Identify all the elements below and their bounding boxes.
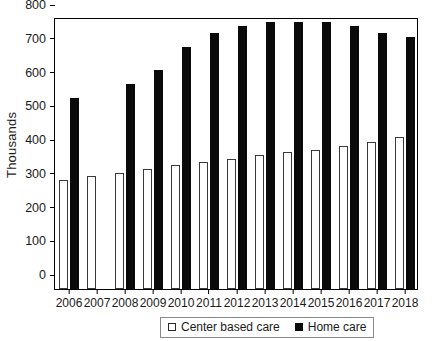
y-axis-tick-mark <box>50 275 55 276</box>
y-axis-tick-label: 500 <box>20 99 50 113</box>
bar-home-care-2017 <box>378 33 388 290</box>
bar-center-based-care-2011 <box>199 162 209 289</box>
x-axis-tick: 2008 <box>112 289 139 310</box>
bar-chart: Thousands 0100200300400500600700800 2006… <box>0 0 432 341</box>
x-axis-tick-label: 2015 <box>308 296 335 310</box>
x-axis-tick: 2016 <box>336 289 363 310</box>
y-axis-tick: 800 <box>20 0 55 12</box>
x-axis-tick: 2012 <box>224 289 251 310</box>
y-axis-tick: 100 <box>20 234 55 248</box>
x-axis-tick: 2014 <box>280 289 307 310</box>
y-axis-tick: 700 <box>20 32 55 46</box>
legend-item-center-based-care: Center based care <box>168 320 280 334</box>
y-axis-tick-label: 600 <box>20 66 50 80</box>
x-axis-tick: 2011 <box>196 289 222 310</box>
y-axis-tick: 0 <box>20 268 55 282</box>
bar-center-based-care-2009 <box>143 169 153 289</box>
x-axis-tick-label: 2006 <box>56 296 83 310</box>
bar-home-care-2012 <box>238 26 248 289</box>
x-axis-tick-mark <box>320 289 321 294</box>
bar-center-based-care-2014 <box>283 152 293 289</box>
bar-home-care-2015 <box>322 22 332 289</box>
bar-center-based-care-2006 <box>59 180 69 289</box>
x-axis-tick: 2007 <box>84 289 111 310</box>
y-axis-tick: 200 <box>20 201 55 215</box>
bar-center-based-care-2007 <box>87 176 97 289</box>
y-axis-tick-mark <box>50 38 55 39</box>
legend-label-home-care: Home care <box>308 320 367 334</box>
y-axis-tick-mark <box>50 72 55 73</box>
x-axis-tick-label: 2007 <box>84 296 111 310</box>
x-axis-tick: 2018 <box>392 289 419 310</box>
bar-home-care-2009 <box>154 70 164 289</box>
bar-center-based-care-2013 <box>255 155 265 289</box>
plot-area: 0100200300400500600700800 20062007200820… <box>54 18 418 290</box>
y-axis-tick-label: 400 <box>20 133 50 147</box>
plot-inner: 0100200300400500600700800 20062007200820… <box>55 19 417 289</box>
x-axis-tick-label: 2016 <box>336 296 363 310</box>
x-axis-tick-label: 2017 <box>364 296 391 310</box>
x-axis-tick-label: 2010 <box>168 296 195 310</box>
bar-home-care-2018 <box>406 37 416 289</box>
x-axis-tick: 2006 <box>56 289 83 310</box>
bar-home-care-2016 <box>350 26 360 289</box>
x-axis-tick-mark <box>236 289 237 294</box>
filled-square-swatch-icon <box>295 323 303 331</box>
bar-home-care-2013 <box>266 22 276 289</box>
x-axis-tick-mark <box>96 289 97 294</box>
x-axis-tick-mark <box>292 289 293 294</box>
y-axis-tick-label: 700 <box>20 32 50 46</box>
y-axis-title: Thousands <box>2 0 20 290</box>
legend-item-home-care: Home care <box>295 320 367 334</box>
legend-label-center-based-care: Center based care <box>181 320 280 334</box>
y-axis-tick-label: 200 <box>20 201 50 215</box>
open-square-swatch-icon <box>168 323 176 331</box>
y-axis-tick-label: 0 <box>20 268 50 282</box>
y-axis-tick-mark <box>50 106 55 107</box>
bar-home-care-2006 <box>70 98 80 289</box>
bar-center-based-care-2012 <box>227 159 237 289</box>
x-axis-tick-label: 2009 <box>140 296 167 310</box>
bar-center-based-care-2010 <box>171 165 181 289</box>
x-axis-tick: 2015 <box>308 289 335 310</box>
chart-legend: Center based care Home care <box>160 317 374 338</box>
y-axis-tick-mark <box>50 5 55 6</box>
x-axis-tick: 2017 <box>364 289 391 310</box>
x-axis-tick-mark <box>404 289 405 294</box>
y-axis-tick-label: 100 <box>20 234 50 248</box>
y-axis-tick-label: 800 <box>20 0 50 12</box>
x-axis-tick-mark <box>209 289 210 294</box>
y-axis-tick-label: 300 <box>20 167 50 181</box>
x-axis-tick-label: 2012 <box>224 296 251 310</box>
bar-center-based-care-2008 <box>115 173 125 289</box>
x-axis-tick-mark <box>348 289 349 294</box>
x-axis-tick-label: 2008 <box>112 296 139 310</box>
x-axis-tick: 2009 <box>140 289 167 310</box>
bar-center-based-care-2017 <box>367 142 377 289</box>
bar-center-based-care-2015 <box>311 150 321 289</box>
x-axis-tick: 2010 <box>168 289 195 310</box>
x-axis-tick-mark <box>124 289 125 294</box>
bars-layer <box>55 19 417 289</box>
y-axis-tick: 300 <box>20 167 55 181</box>
x-axis-tick-label: 2011 <box>196 296 222 310</box>
bar-home-care-2008 <box>126 84 136 289</box>
bar-home-care-2011 <box>210 33 220 290</box>
x-axis-tick-label: 2014 <box>280 296 307 310</box>
x-axis-tick: 2013 <box>252 289 279 310</box>
x-axis-tick-label: 2018 <box>392 296 419 310</box>
bar-center-based-care-2016 <box>339 146 349 289</box>
bar-home-care-2014 <box>294 22 304 289</box>
y-axis-tick-mark <box>50 207 55 208</box>
x-axis-tick-mark <box>152 289 153 294</box>
bar-home-care-2010 <box>182 47 192 289</box>
x-axis-tick-label: 2013 <box>252 296 279 310</box>
x-axis-tick-mark <box>180 289 181 294</box>
y-axis-tick-mark <box>50 140 55 141</box>
x-axis-tick-mark <box>68 289 69 294</box>
x-axis-tick-mark <box>376 289 377 294</box>
y-axis-tick: 400 <box>20 133 55 147</box>
bar-center-based-care-2018 <box>395 137 405 289</box>
y-axis-tick: 600 <box>20 66 55 80</box>
y-axis-tick: 500 <box>20 99 55 113</box>
